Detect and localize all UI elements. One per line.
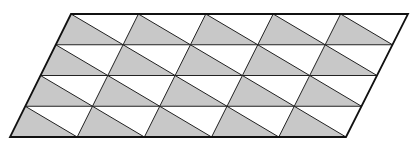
shaded-triangle: [190, 14, 257, 45]
shaded-triangle: [279, 106, 346, 137]
shaded-triangle: [227, 76, 294, 107]
shaded-triangle: [10, 106, 77, 137]
shaded-triangle: [56, 14, 123, 45]
tiled-parallelogram-diagram: [0, 0, 417, 147]
shaded-triangle: [144, 106, 211, 137]
shaded-triangle: [123, 14, 190, 45]
shaded-triangle: [160, 76, 227, 107]
shaded-triangle: [212, 106, 279, 137]
shaded-triangle: [325, 14, 392, 45]
shaded-triangle: [25, 76, 92, 107]
shaded-triangle: [175, 45, 242, 76]
shaded-triangle: [242, 45, 309, 76]
shaded-triangle: [41, 45, 108, 76]
shaded-triangle: [93, 76, 160, 107]
shaded-triangle: [77, 106, 144, 137]
shaded-triangle: [310, 45, 377, 76]
shaded-triangle: [108, 45, 175, 76]
shaded-triangle: [294, 76, 361, 107]
shaded-triangle: [258, 14, 325, 45]
